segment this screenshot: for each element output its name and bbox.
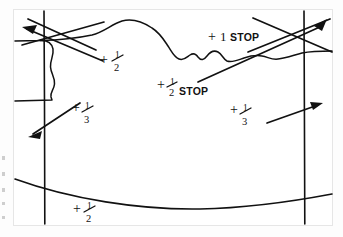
pointer-top-right-stroke-b (248, 19, 330, 52)
horizon-line (15, 40, 55, 101)
guide-bottom-arc (15, 179, 332, 209)
annotation-plus-sign: + (73, 201, 81, 216)
annotation-upper-left-zone: + 1 2 (100, 50, 123, 73)
annotation-bottom-edge: + 1 2 (73, 201, 95, 224)
annotation-plus-sign: + (72, 100, 80, 115)
annotation-right-foreground: + 1 3 (230, 102, 251, 127)
annotation-denominator: 3 (84, 114, 89, 125)
annotation-denominator: 2 (169, 87, 174, 98)
annotation-plus-sign: + (230, 102, 238, 117)
annotation-plus-sign: + (208, 29, 216, 44)
annotation-denominator: 2 (86, 213, 91, 224)
annotation-unit: STOP (179, 85, 208, 97)
pointer-right-third-shaft (267, 105, 318, 123)
annotation-amount: 1 (220, 29, 227, 44)
guide-left-vertical (44, 11, 45, 224)
annotation-plus-sign: + (157, 77, 165, 92)
annotation-denominator: 3 (242, 116, 247, 127)
annotation-sketch: + 1 STOP + 1 2 STOP + 1 2 + 1 3 + (0, 0, 343, 237)
annotation-left-foreground: + 1 3 (72, 100, 93, 125)
annotation-unit: STOP (230, 31, 259, 43)
scan-page: + 1 STOP + 1 2 STOP + 1 2 + 1 3 + (0, 0, 343, 237)
annotation-denominator: 2 (114, 62, 119, 73)
pointer-right-third-arrow-icon (310, 102, 323, 110)
annotation-sky-upper-right: + 1 STOP (208, 29, 259, 44)
annotation-plus-sign: + (100, 52, 108, 67)
guide-right-vertical (304, 11, 305, 224)
